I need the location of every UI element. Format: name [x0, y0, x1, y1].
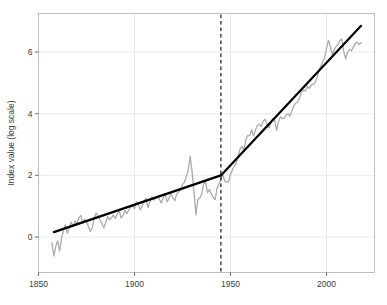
y-tick-label-3: 6 [28, 47, 33, 57]
grid-lines [39, 14, 375, 273]
y-tick-label-1: 2 [28, 170, 33, 180]
axis-tick-labels: 18501900195020000246 [28, 47, 336, 288]
x-tick-label-3: 2000 [317, 279, 336, 289]
y-tick-label-0: 0 [28, 232, 33, 242]
data-series-group [52, 26, 361, 256]
series-trend-segment-post-break [221, 26, 361, 176]
series-index-series [52, 39, 361, 256]
y-tick-label-2: 4 [28, 109, 33, 119]
axis-ticks [35, 52, 327, 276]
chart-figure: 18501900195020000246 Index value (log sc… [0, 0, 387, 305]
y-axis-title-text: Index value (log scale) [6, 100, 16, 185]
chart-plot-area: 18501900195020000246 Index value (log sc… [0, 0, 387, 305]
series-trend-segment-pre-break [54, 175, 221, 232]
x-tick-label-1: 1900 [125, 279, 144, 289]
x-tick-label-2: 1950 [221, 279, 240, 289]
x-tick-label-0: 1850 [29, 279, 48, 289]
y-axis-title: Index value (log scale) [6, 100, 16, 185]
